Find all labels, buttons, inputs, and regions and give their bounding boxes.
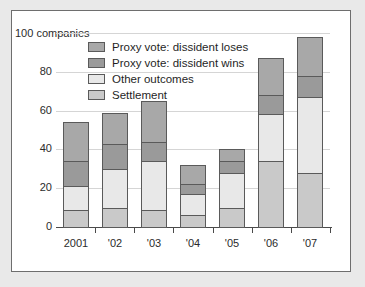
y-tick-label-80: 80 [12,66,52,77]
bar-segment [219,149,245,162]
legend-label: Proxy vote: dissident wins [112,57,244,69]
legend-label: Settlement [112,89,167,101]
x-tick-mark [95,228,96,233]
bar-segment [219,208,245,228]
x-tick-mark [213,228,214,233]
bar-segment [141,142,167,162]
bar-07 [297,33,323,227]
y-tick-label-60: 60 [12,105,52,116]
bar-segment [297,76,323,98]
x-tick-mark [134,228,135,233]
bar-segment [219,161,245,174]
x-tick-label-2001: 2001 [56,237,96,249]
bar-segment [297,37,323,77]
legend-swatch-icon [88,58,105,68]
y-tick-80: 80 [12,66,52,77]
y-tick-60: 60 [12,105,52,116]
legend-label: Other outcomes [112,73,194,85]
x-tick-label-07: '07 [290,237,330,249]
bar-segment [180,194,206,216]
bar-segment [63,161,89,187]
bar-segment [297,97,323,174]
legend-item: Proxy vote: dissident loses [88,39,248,54]
x-tick-label-04: '04 [173,237,213,249]
legend-label: Proxy vote: dissident loses [112,41,248,53]
legend-item: Settlement [88,87,248,102]
x-tick-label-06: '06 [251,237,291,249]
bar-segment [219,173,245,209]
stacked-bar-chart: 100 companies 020406080 2001'02'03'04'05… [12,11,352,273]
bar-segment [180,165,206,185]
bar-segment [63,210,89,228]
bar-segment [141,101,167,143]
bar-segment [258,114,284,162]
bar-segment [63,186,89,211]
x-tick-mark [330,228,331,233]
bar-segment [258,161,284,228]
x-tick-label-02: '02 [95,237,135,249]
y-tick-0: 0 [12,221,52,232]
legend-item: Other outcomes [88,71,248,86]
x-tick-mark [173,228,174,233]
bar-06 [258,33,284,227]
y-tick-20: 20 [12,182,52,193]
bar-segment [102,169,128,209]
y-tick-label-0: 0 [12,221,52,232]
bar-segment [258,95,284,115]
bar-segment [141,161,167,211]
y-tick-label-40: 40 [12,143,52,154]
bar-2001 [63,33,89,227]
x-tick-label-05: '05 [212,237,252,249]
bar-segment [297,173,323,228]
bar-segment [258,58,284,96]
bar-segment [180,184,206,195]
bar-segment [63,122,89,162]
y-tick-40: 40 [12,143,52,154]
chart-panel: 100 companies 020406080 2001'02'03'04'05… [11,10,351,272]
x-tick-label-03: '03 [134,237,174,249]
bar-segment [141,210,167,228]
bar-segment [102,144,128,170]
legend-swatch-icon [88,90,105,100]
legend-item: Proxy vote: dissident wins [88,55,248,70]
x-tick-mark [252,228,253,233]
chart-legend: Proxy vote: dissident losesProxy vote: d… [88,39,248,103]
bar-segment [102,208,128,228]
bar-segment [180,215,206,228]
bar-segment [102,113,128,145]
y-tick-label-20: 20 [12,182,52,193]
x-tick-mark [291,228,292,233]
legend-swatch-icon [88,42,105,52]
legend-swatch-icon [88,74,105,84]
